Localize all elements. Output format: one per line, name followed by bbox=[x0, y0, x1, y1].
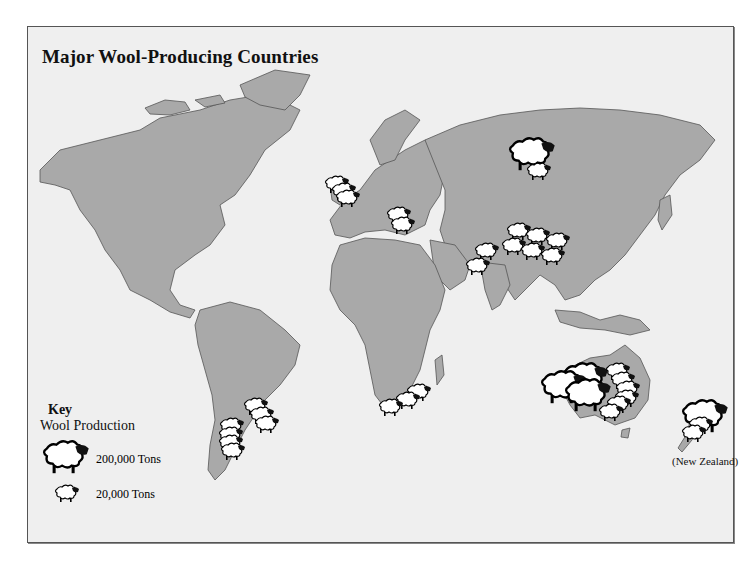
japan bbox=[658, 195, 672, 230]
key-entry-large: 200,000 Tons bbox=[96, 452, 161, 467]
southeast-asia-islands bbox=[555, 310, 650, 335]
north-america bbox=[40, 95, 300, 318]
new-zealand-label: (New Zealand) bbox=[672, 455, 738, 467]
madagascar bbox=[435, 355, 444, 385]
key-subtitle: Wool Production bbox=[40, 418, 135, 434]
asia bbox=[425, 108, 715, 300]
africa bbox=[330, 238, 445, 408]
key-large-sheep-icon bbox=[44, 441, 89, 473]
south-america bbox=[195, 302, 300, 480]
key-entry-small: 20,000 Tons bbox=[96, 487, 155, 502]
key-title: Key bbox=[48, 402, 135, 418]
map-key: Key Wool Production bbox=[40, 402, 135, 434]
small-sheep-icon bbox=[256, 416, 280, 433]
tasmania bbox=[621, 428, 630, 438]
world-map bbox=[0, 0, 751, 567]
key-small-sheep-icon bbox=[56, 485, 80, 502]
small-sheep-icon bbox=[380, 399, 404, 416]
map-title: Major Wool-Producing Countries bbox=[42, 46, 318, 68]
land-masses bbox=[40, 70, 715, 480]
